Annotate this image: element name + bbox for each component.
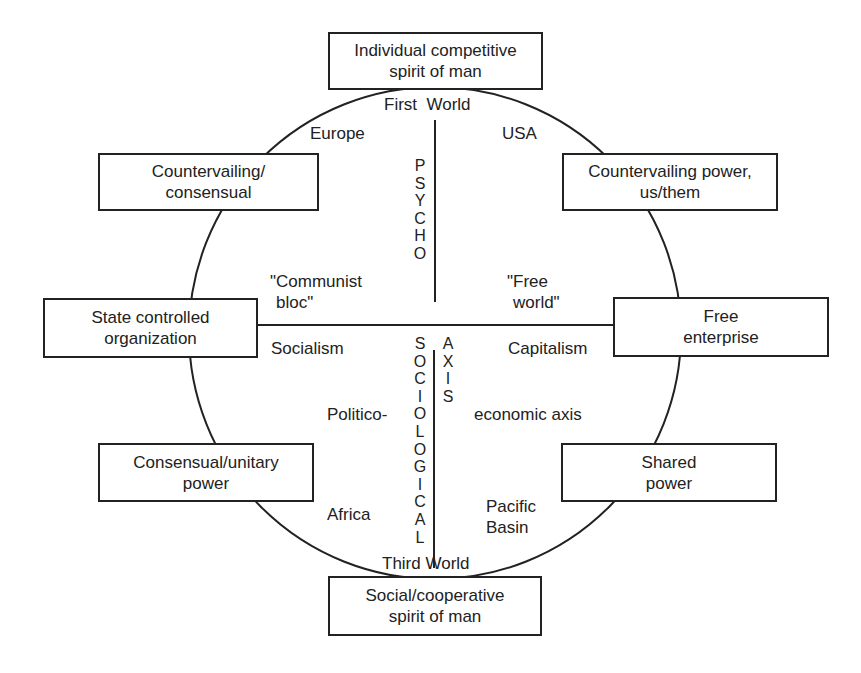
letter: X xyxy=(441,353,455,371)
label-africa: Africa xyxy=(327,504,370,525)
box-line: Shared xyxy=(642,452,697,473)
vertical-text-psycho: P S Y C H O xyxy=(413,157,427,263)
vertical-text-axis: A X I S xyxy=(441,335,455,405)
box-line: Countervailing power, xyxy=(588,161,751,182)
label-europe: Europe xyxy=(310,123,365,144)
letter: Y xyxy=(413,192,427,210)
label-capitalism: Capitalism xyxy=(508,338,587,359)
box-countervailing-consensual: Countervailing/ consensual xyxy=(98,153,319,211)
box-line: Consensual/unitary xyxy=(133,452,279,473)
label-line: world" xyxy=(507,292,560,313)
label-line: "Communist xyxy=(270,271,362,292)
letter: S xyxy=(413,175,427,193)
letter: I xyxy=(413,476,427,494)
letter: C xyxy=(413,370,427,388)
letter: S xyxy=(413,335,427,353)
box-line: spirit of man xyxy=(389,61,482,82)
letter: G xyxy=(413,458,427,476)
label-usa: USA xyxy=(502,123,537,144)
label-line: bloc" xyxy=(270,292,362,313)
label-pacific-basin: Pacific Basin xyxy=(486,496,536,538)
letter: O xyxy=(413,245,427,263)
letter: L xyxy=(413,423,427,441)
label-politico: Politico- xyxy=(327,404,387,425)
letter: A xyxy=(413,511,427,529)
box-individual-competitive-spirit: Individual competitive spirit of man xyxy=(328,32,543,90)
letter: I xyxy=(413,388,427,406)
label-free-world: "Free world" xyxy=(507,271,560,313)
box-consensual-unitary-power: Consensual/unitary power xyxy=(98,443,314,502)
box-line: Countervailing/ xyxy=(152,161,265,182)
letter: A xyxy=(441,335,455,353)
label-communist-bloc: "Communist bloc" xyxy=(270,271,362,313)
letter: P xyxy=(413,157,427,175)
letter: C xyxy=(413,493,427,511)
box-line: power xyxy=(183,473,229,494)
label-line: Pacific xyxy=(486,496,536,517)
box-line: enterprise xyxy=(683,327,759,348)
box-line: Social/cooperative xyxy=(366,585,505,606)
box-line: Individual competitive xyxy=(354,40,517,61)
label-economic-axis: economic axis xyxy=(474,404,582,425)
box-line: consensual xyxy=(165,182,251,203)
box-line: spirit of man xyxy=(389,606,482,627)
label-line: Basin xyxy=(486,517,536,538)
letter: H xyxy=(413,227,427,245)
letter: I xyxy=(441,370,455,388)
label-first-world: First World xyxy=(384,94,471,115)
box-free-enterprise: Free enterprise xyxy=(613,297,829,357)
box-state-controlled-organization: State controlled organization xyxy=(43,298,258,358)
letter: O xyxy=(413,405,427,423)
box-line: power xyxy=(646,473,692,494)
vertical-text-sociological: S O C I O L O G I C A L xyxy=(413,335,427,546)
box-line: Free xyxy=(704,306,739,327)
label-third-world: Third World xyxy=(382,553,470,574)
letter: O xyxy=(413,441,427,459)
letter: S xyxy=(441,388,455,406)
label-socialism: Socialism xyxy=(271,338,344,359)
box-line: organization xyxy=(104,328,197,349)
letter: C xyxy=(413,210,427,228)
box-line: us/them xyxy=(640,182,700,203)
box-shared-power: Shared power xyxy=(561,443,777,502)
letter: O xyxy=(413,353,427,371)
box-social-cooperative-spirit: Social/cooperative spirit of man xyxy=(328,576,542,636)
box-countervailing-power: Countervailing power, us/them xyxy=(562,153,778,211)
letter: L xyxy=(413,529,427,547)
box-line: State controlled xyxy=(91,307,209,328)
label-line: "Free xyxy=(507,271,560,292)
